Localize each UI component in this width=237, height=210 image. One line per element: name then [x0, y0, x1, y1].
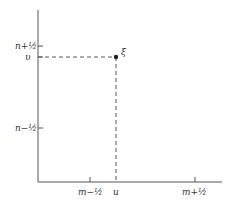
point-xi — [114, 55, 118, 59]
coordinate-diagram: n+½ υ n−½ ξ m−½ u m+½ — [0, 0, 237, 210]
label-m-minus-half: m−½ — [78, 187, 103, 197]
label-xi: ξ — [121, 47, 127, 57]
label-n-plus-half: n+½ — [15, 41, 37, 51]
label-u: u — [113, 187, 119, 197]
label-m-plus-half: m+½ — [182, 187, 207, 197]
label-v: υ — [25, 52, 31, 62]
label-n-minus-half: n−½ — [15, 123, 37, 133]
